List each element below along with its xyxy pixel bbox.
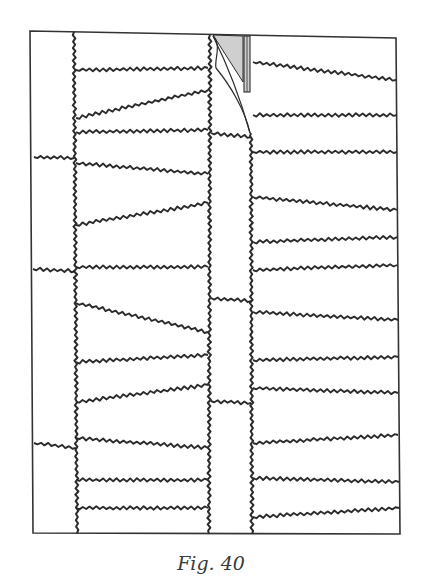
middle-strip-zigzag-line <box>211 132 251 138</box>
right-section-zigzag-line <box>253 507 399 518</box>
left-section-zigzag-line <box>76 202 208 226</box>
left-section-zigzag-line <box>76 384 208 403</box>
left-section-zigzag-line <box>76 265 208 268</box>
left-section-zigzag-line <box>76 163 208 175</box>
right-section-zigzag-line <box>253 62 396 81</box>
far-left-zigzag-line <box>34 443 76 449</box>
right-section-zigzag-line <box>253 387 398 394</box>
right-section-zigzag-line <box>253 113 397 117</box>
far-left-zigzag-line <box>33 268 75 273</box>
left-section-zigzag-line <box>76 303 208 333</box>
middle-left-seam <box>207 35 211 534</box>
frame-outline <box>30 31 400 534</box>
left-section-zigzag-line <box>76 129 208 134</box>
left-section-zigzag-line <box>76 437 208 449</box>
right-section-zigzag-line <box>253 477 399 483</box>
left-section-zigzag-line <box>76 506 208 510</box>
left-section-zigzag-line <box>76 66 208 71</box>
right-section-zigzag-line <box>253 264 397 271</box>
vertical-seams <box>73 32 254 534</box>
middle-right-seam <box>250 133 254 534</box>
right-section-zigzag-line <box>253 236 397 244</box>
shaded-flap-region <box>213 35 243 82</box>
figure-diagram <box>0 0 422 586</box>
far-left-zigzag-line <box>34 156 74 159</box>
panel-frame <box>30 31 400 534</box>
middle-strip-zigzag-line <box>211 400 251 404</box>
right-section-zigzag-line <box>253 150 397 154</box>
right-section-zigzag-line <box>253 356 398 361</box>
right-section-zigzag-line <box>253 196 397 211</box>
left-seam <box>73 32 79 533</box>
horizontal-zigzag-lines <box>33 62 399 518</box>
right-section-zigzag-line <box>253 311 398 321</box>
left-section-zigzag-line <box>76 478 208 482</box>
figure-caption: Fig. 40 <box>0 552 422 574</box>
right-section-zigzag-line <box>253 434 398 444</box>
curled-flap <box>213 35 250 133</box>
left-section-zigzag-line <box>76 354 208 364</box>
left-section-zigzag-line <box>76 90 208 119</box>
middle-strip-zigzag-line <box>211 298 251 303</box>
